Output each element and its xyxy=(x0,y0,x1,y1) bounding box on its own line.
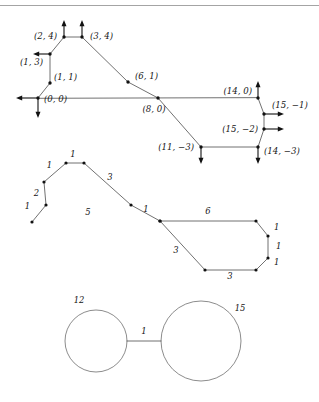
polyline-vertex-dot-group xyxy=(30,161,269,271)
polyline-vertex-dot-5 xyxy=(129,203,132,206)
coordinate-label-(3,4): (3, 4) xyxy=(90,31,113,41)
vertex-dot-(8,0) xyxy=(156,96,159,99)
edge-length-label-2: 1 xyxy=(47,160,52,170)
edge-length-label-4: 3 xyxy=(107,172,112,182)
edge-length-label-10: 1 xyxy=(274,257,279,267)
vertex-dot-(6,1) xyxy=(126,80,129,83)
edge-length-label-1: 2 xyxy=(33,188,39,198)
vertex-dot-(2,4) xyxy=(62,35,65,38)
polyline-vertex-dot-1 xyxy=(44,203,47,206)
figure-root: (0, 0)(1, 1)(1, 3)(2, 4)(3, 4)(6, 1)(8, … xyxy=(0,0,319,402)
polyline-vertex-dot-4 xyxy=(82,161,85,164)
polyline-vertex-dot-10 xyxy=(254,268,257,271)
polyline-vertex-dot-12 xyxy=(158,219,161,222)
normal-arrow-up-0-head xyxy=(62,20,67,26)
edge-length-label-8: 1 xyxy=(274,222,279,232)
figures-canvas: (0, 0)(1, 1)(1, 3)(2, 4)(3, 4)(6, 1)(8, … xyxy=(0,0,319,402)
circle-12 xyxy=(65,310,127,372)
coordinate-label-(15,-1): (15, −1) xyxy=(272,100,308,110)
vertex-dot-(3,4) xyxy=(80,35,83,38)
edge-length-label-5: 5 xyxy=(85,207,90,217)
coordinate-label-(14,0): (14, 0) xyxy=(223,86,252,96)
polyline-vertex-dot-7 xyxy=(254,219,257,222)
vertex-dot-(15,-1) xyxy=(262,112,265,115)
edge-length-label-3: 1 xyxy=(70,149,75,159)
connector-label: 1 xyxy=(141,326,146,336)
figure-coordinate-polygon: (0, 0)(1, 1)(1, 3)(2, 4)(3, 4)(6, 1)(8, … xyxy=(16,20,308,164)
edge-length-label-7: 6 xyxy=(205,206,211,216)
coordinate-label-(6,1): (6, 1) xyxy=(135,71,158,81)
circle-label-12: 12 xyxy=(74,295,85,305)
polyline-vertex-dot-0 xyxy=(30,220,33,223)
vertex-dot-(11,-3) xyxy=(199,145,202,148)
circle-label-15: 15 xyxy=(235,303,246,313)
vertex-dot-(14,0) xyxy=(256,96,259,99)
normal-arrow-up-5-head xyxy=(256,81,261,87)
normal-arrow-left-2-head xyxy=(33,52,39,57)
normal-arrow-up-1-head xyxy=(80,20,85,26)
polyline-vertex-dot-3 xyxy=(64,161,67,164)
edge-length-label-12: 3 xyxy=(173,245,178,255)
vertex-dot-(1,1) xyxy=(48,81,51,84)
vertex-dot-(15,-2) xyxy=(262,127,265,130)
vertex-dot-(14,-3) xyxy=(256,145,259,148)
normal-arrow-down-9-head xyxy=(256,158,261,164)
figure-two-circles: 12151 xyxy=(65,295,245,381)
coordinate-label-(14,-3): (14, −3) xyxy=(264,146,300,156)
edge-length-label-9: 1 xyxy=(276,241,281,251)
vertex-dot-(1,3) xyxy=(48,52,51,55)
edge-length-label-6: 1 xyxy=(143,204,148,214)
edge-length-label-11: 3 xyxy=(227,271,232,281)
coordinate-label-(1,3): (1, 3) xyxy=(20,57,43,67)
normal-arrow-down-4-head xyxy=(36,112,41,118)
coordinate-label-(1,1): (1, 1) xyxy=(54,72,77,82)
polyline-vertex-dot-9 xyxy=(266,256,269,259)
coordinate-label-group: (0, 0)(1, 1)(1, 3)(2, 4)(3, 4)(6, 1)(8, … xyxy=(20,31,308,156)
circle-label-group: 12151 xyxy=(74,295,246,336)
polyline-vertex-dot-8 xyxy=(266,234,269,237)
normal-arrow-right-6-head xyxy=(278,112,284,117)
edge-length-label-group: 1211351611133 xyxy=(25,149,282,281)
coordinate-label-(11,-3): (11, −3) xyxy=(158,142,194,152)
coordinate-label-(15,-2): (15, −2) xyxy=(222,124,258,134)
vertex-dot-(0,0) xyxy=(36,96,39,99)
circle-15 xyxy=(161,301,241,381)
normal-arrow-down-8-head xyxy=(199,158,204,164)
polyline-vertex-dot-2 xyxy=(42,180,45,183)
edge-length-label-0: 1 xyxy=(25,201,30,211)
coordinate-label-(0,0): (0, 0) xyxy=(44,94,67,104)
coordinate-label-(8,0): (8, 0) xyxy=(142,104,165,114)
normal-arrow-right-7-head xyxy=(278,127,284,132)
polyline-outline xyxy=(32,163,268,270)
coordinate-label-(2,4): (2, 4) xyxy=(34,31,57,41)
figure-length-labeled-polyline: 1211351611133 xyxy=(25,149,282,281)
normal-arrow-left-3-head xyxy=(16,96,22,101)
polyline-vertex-dot-11 xyxy=(203,268,206,271)
